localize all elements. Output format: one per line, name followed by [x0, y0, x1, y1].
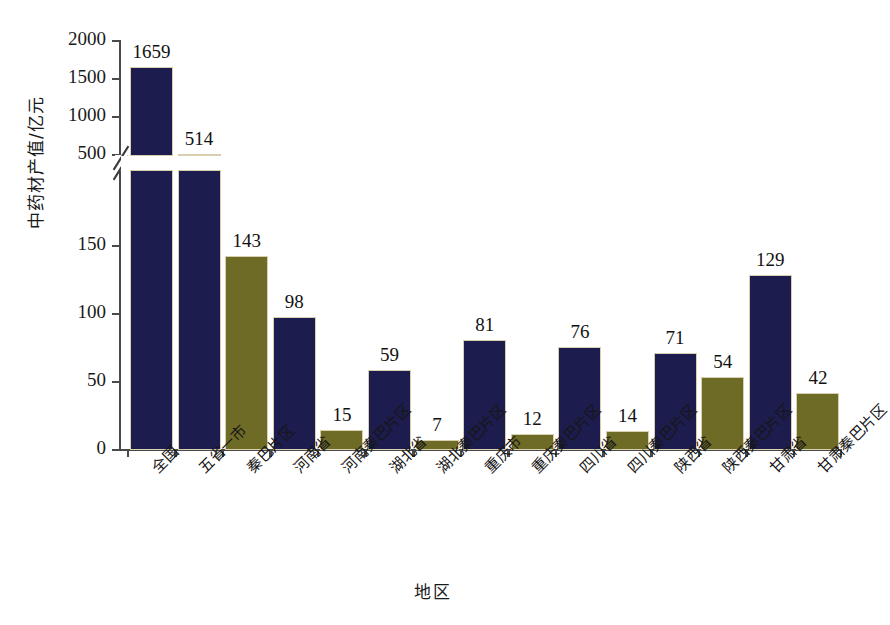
bar[interactable]: [130, 170, 173, 450]
axis-break-band: [121, 156, 842, 170]
bar-value-label: 42: [784, 367, 851, 389]
y-tick-mark: [112, 313, 120, 315]
bar-value-label: 81: [451, 314, 518, 336]
y-tick-label: 500: [46, 142, 106, 164]
bar[interactable]: [225, 256, 268, 450]
bar-value-label: 71: [642, 327, 709, 349]
y-tick-mark: [112, 449, 120, 451]
y-tick-label: 50: [46, 369, 106, 391]
bar-value-label: 54: [689, 351, 756, 373]
y-tick-label: 150: [46, 233, 106, 255]
bar-value-label: 129: [737, 249, 804, 271]
bar-value-label: 98: [261, 291, 328, 313]
y-tick-mark: [112, 381, 120, 383]
bar-value-label: 1659: [118, 41, 185, 63]
bar-value-label: 514: [166, 128, 233, 150]
y-tick-mark: [112, 78, 120, 80]
bar-value-label: 15: [308, 404, 375, 426]
y-tick-mark: [112, 116, 120, 118]
y-tick-label: 1500: [46, 66, 106, 88]
y-tick-label: 100: [46, 301, 106, 323]
y-tick-label: 2000: [46, 28, 106, 50]
y-tick-label: 0: [46, 437, 106, 459]
y-axis-title: 中药材产值/亿元: [22, 63, 47, 263]
y-tick-mark: [112, 245, 120, 247]
bar-value-label: 143: [213, 230, 280, 252]
bar[interactable]: [178, 170, 221, 450]
bar-value-label: 76: [546, 321, 613, 343]
bar-value-label: 59: [356, 344, 423, 366]
x-axis-title: 地区: [0, 578, 865, 603]
y-tick-label: 1000: [46, 104, 106, 126]
x-tick-mark: [127, 449, 129, 457]
bar-value-label: 12: [499, 408, 566, 430]
bar-value-label: 14: [594, 405, 661, 427]
